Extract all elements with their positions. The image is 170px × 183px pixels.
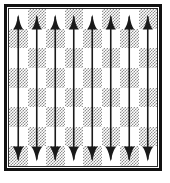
square-b1[interactable] [28, 146, 47, 166]
square-f1[interactable] [102, 146, 121, 166]
square-g3[interactable] [120, 107, 139, 127]
square-f2[interactable] [102, 127, 121, 147]
square-b3[interactable] [28, 107, 47, 127]
square-e4[interactable] [83, 88, 102, 108]
square-d5[interactable] [65, 68, 84, 88]
square-e1[interactable] [83, 146, 102, 166]
square-c3[interactable] [46, 107, 65, 127]
square-g6[interactable] [120, 48, 139, 68]
square-b5[interactable] [28, 68, 47, 88]
board-area [9, 9, 157, 166]
square-b8[interactable] [28, 9, 47, 29]
square-f6[interactable] [102, 48, 121, 68]
square-h5[interactable] [139, 68, 158, 88]
chess-board [9, 9, 157, 166]
square-b7[interactable] [28, 29, 47, 49]
square-h4[interactable] [139, 88, 158, 108]
square-a2[interactable] [9, 127, 28, 147]
square-d6[interactable] [65, 48, 84, 68]
square-c7[interactable] [46, 29, 65, 49]
square-g1[interactable] [120, 146, 139, 166]
square-d4[interactable] [65, 88, 84, 108]
square-f4[interactable] [102, 88, 121, 108]
square-g7[interactable] [120, 29, 139, 49]
square-b2[interactable] [28, 127, 47, 147]
square-c4[interactable] [46, 88, 65, 108]
square-h3[interactable] [139, 107, 158, 127]
square-b6[interactable] [28, 48, 47, 68]
square-g4[interactable] [120, 88, 139, 108]
square-h8[interactable] [139, 9, 158, 29]
square-d8[interactable] [65, 9, 84, 29]
square-c8[interactable] [46, 9, 65, 29]
square-h6[interactable] [139, 48, 158, 68]
square-a1[interactable] [9, 146, 28, 166]
square-e2[interactable] [83, 127, 102, 147]
square-b4[interactable] [28, 88, 47, 108]
square-a3[interactable] [9, 107, 28, 127]
square-c2[interactable] [46, 127, 65, 147]
square-e8[interactable] [83, 9, 102, 29]
square-c5[interactable] [46, 68, 65, 88]
square-d3[interactable] [65, 107, 84, 127]
square-g8[interactable] [120, 9, 139, 29]
square-f7[interactable] [102, 29, 121, 49]
square-e7[interactable] [83, 29, 102, 49]
square-a6[interactable] [9, 48, 28, 68]
square-h1[interactable] [139, 146, 158, 166]
square-a5[interactable] [9, 68, 28, 88]
square-d1[interactable] [65, 146, 84, 166]
square-e6[interactable] [83, 48, 102, 68]
square-c6[interactable] [46, 48, 65, 68]
square-g2[interactable] [120, 127, 139, 147]
square-c1[interactable] [46, 146, 65, 166]
square-e3[interactable] [83, 107, 102, 127]
square-h2[interactable] [139, 127, 158, 147]
chess-diagram-root: Chessboard with file arrows [0, 0, 170, 183]
square-a8[interactable] [9, 9, 28, 29]
square-f5[interactable] [102, 68, 121, 88]
square-d2[interactable] [65, 127, 84, 147]
square-a7[interactable] [9, 29, 28, 49]
square-g5[interactable] [120, 68, 139, 88]
square-a4[interactable] [9, 88, 28, 108]
square-e5[interactable] [83, 68, 102, 88]
square-f3[interactable] [102, 107, 121, 127]
square-f8[interactable] [102, 9, 121, 29]
square-h7[interactable] [139, 29, 158, 49]
square-d7[interactable] [65, 29, 84, 49]
